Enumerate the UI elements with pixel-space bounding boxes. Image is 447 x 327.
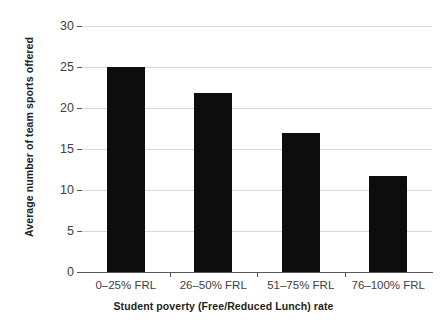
y-axis-tick-label: 20	[60, 102, 74, 115]
x-axis-tick-mark	[345, 272, 346, 277]
bar	[369, 176, 407, 272]
y-axis-tick-mark	[77, 67, 82, 68]
plot-area: 051015202530	[82, 26, 432, 272]
x-axis-category-label: 76–100% FRL	[351, 280, 425, 292]
bar-chart-figure: Average number of team sports offered 05…	[0, 0, 447, 327]
x-axis-category-label: 26–50% FRL	[180, 280, 247, 292]
x-axis-tick-mark	[257, 272, 258, 277]
x-axis-category-label: 0–25% FRL	[95, 280, 156, 292]
y-axis-tick-mark	[77, 108, 82, 109]
gridline	[82, 26, 432, 27]
y-axis-title: Average number of team sports offered	[23, 12, 35, 262]
y-axis-tick-label: 30	[60, 20, 74, 33]
bar	[194, 93, 232, 272]
y-axis-tick-mark	[77, 272, 82, 273]
x-axis-title: Student poverty (Free/Reduced Lunch) rat…	[0, 300, 447, 312]
y-axis-tick-mark	[77, 149, 82, 150]
y-axis-tick-label: 5	[67, 225, 74, 238]
y-axis-tick-label: 15	[60, 143, 74, 156]
bar	[282, 133, 320, 272]
y-axis-tick-mark	[77, 26, 82, 27]
x-axis-tick-mark	[170, 272, 171, 277]
bar	[107, 67, 145, 272]
y-axis-tick-label: 0	[67, 266, 74, 279]
x-axis-category-label: 51–75% FRL	[267, 280, 334, 292]
y-axis-tick-mark	[77, 190, 82, 191]
y-axis-tick-label: 10	[60, 184, 74, 197]
y-axis-tick-label: 25	[60, 61, 74, 74]
y-axis-tick-mark	[77, 231, 82, 232]
